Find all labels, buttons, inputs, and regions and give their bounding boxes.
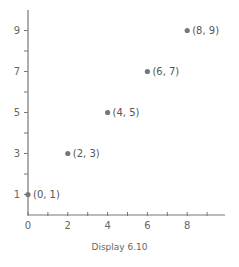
data-point — [65, 151, 70, 156]
point-label: (6, 7) — [152, 66, 179, 77]
x-tick-label: 4 — [104, 220, 110, 231]
x-tick-label: 0 — [25, 220, 31, 231]
scatter-chart: 0246813579 (0, 1)(2, 3)(4, 5)(6, 7)(8, 9… — [0, 0, 239, 240]
data-point — [105, 110, 110, 115]
point-label: (2, 3) — [73, 148, 100, 159]
x-tick-label: 2 — [65, 220, 71, 231]
y-tick-label: 1 — [14, 189, 20, 200]
y-tick-label: 3 — [14, 148, 20, 159]
data-point — [25, 192, 30, 197]
y-tick-label: 9 — [14, 25, 20, 36]
figure-caption: Display 6.10 — [0, 242, 239, 252]
point-label: (8, 9) — [192, 25, 219, 36]
data-points: (0, 1)(2, 3)(4, 5)(6, 7)(8, 9) — [25, 25, 219, 200]
point-label: (0, 1) — [33, 189, 60, 200]
x-tick-label: 6 — [144, 220, 150, 231]
y-tick-label: 5 — [14, 107, 20, 118]
x-tick-label: 8 — [184, 220, 190, 231]
data-point — [185, 28, 190, 33]
point-label: (4, 5) — [113, 107, 140, 118]
data-point — [145, 69, 150, 74]
y-tick-label: 7 — [14, 66, 20, 77]
